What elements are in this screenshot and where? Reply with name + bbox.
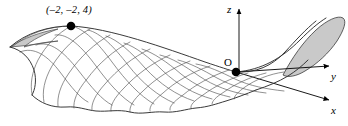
axis-x-line xyxy=(236,72,329,100)
axis-label-y: y xyxy=(331,71,336,82)
filled-region-left-fold xyxy=(10,29,58,47)
axis-label-x: x xyxy=(331,105,336,116)
origin-label: O xyxy=(224,57,232,68)
marked-point-label: (–2, –2, 4) xyxy=(46,5,92,16)
mesh-family-a xyxy=(12,26,284,105)
axis-label-z: z xyxy=(227,4,231,15)
marked-point-dot xyxy=(67,22,76,31)
surface-outline xyxy=(10,18,326,113)
origin-dot xyxy=(232,68,241,77)
plot-canvas xyxy=(0,0,348,126)
surface-plot-figure: z y x O (–2, –2, 4) xyxy=(0,0,348,126)
marker-points xyxy=(67,22,241,77)
